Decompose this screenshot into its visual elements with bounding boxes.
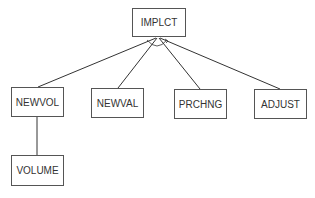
node-label: IMPLCT [141,17,178,28]
node-implct: IMPLCT [132,8,186,37]
node-label: ADJUST [261,99,300,110]
node-label: NEWVOL [16,97,59,108]
node-prchng: PRCHNG [174,89,227,119]
node-volume: VOLUME [11,155,64,186]
node-label: PRCHNG [179,99,222,110]
node-newval: NEWVAL [91,88,144,118]
node-newvol: NEWVOL [11,87,64,117]
node-adjust: ADJUST [254,89,307,119]
node-label: VOLUME [16,165,58,176]
edge-adjust-implct [160,38,280,89]
edge-prchng-implct [159,38,200,89]
node-label: NEWVAL [97,98,139,109]
